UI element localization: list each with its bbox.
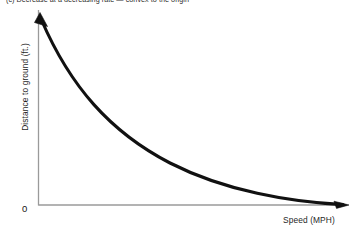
- plot-area: [0, 0, 352, 236]
- data-curve: [42, 20, 344, 205]
- curve-end-arrowhead: [334, 201, 349, 208]
- curve-start-arrowhead: [35, 13, 48, 27]
- figure-container: (c) Decrease at a decreasing rate — conv…: [0, 0, 352, 236]
